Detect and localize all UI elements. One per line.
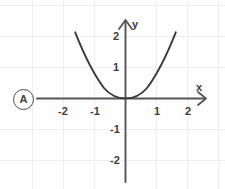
x-tick-label-pos2: 2 [185, 106, 191, 117]
y-tick-label-pos1: 1 [113, 62, 119, 73]
x-tick-label-neg2: -2 [58, 106, 68, 117]
x-axis-label: x [196, 82, 202, 93]
graph-figure: -2 -1 1 2 1 2 -1 -2 x y A [0, 0, 225, 189]
x-tick-label-neg1: -1 [90, 106, 100, 117]
choice-letter-text: A [20, 94, 28, 106]
y-axis-label: y [132, 19, 138, 30]
x-tick-label-pos1: 1 [154, 106, 160, 117]
y-tick-label-neg2: -2 [110, 155, 120, 166]
y-tick-label-pos2: 2 [113, 31, 119, 42]
choice-letter-badge: A [13, 89, 34, 110]
y-tick-label-neg1: -1 [110, 124, 120, 135]
